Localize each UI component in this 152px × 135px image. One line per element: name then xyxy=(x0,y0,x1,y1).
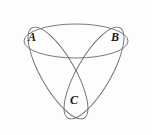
venn-diagram-canvas xyxy=(0,0,152,135)
set-label-b: B xyxy=(111,31,119,43)
set-label-c: C xyxy=(70,94,78,106)
venn-diagram-figure: A B C xyxy=(0,0,152,135)
set-label-a: A xyxy=(28,31,36,43)
